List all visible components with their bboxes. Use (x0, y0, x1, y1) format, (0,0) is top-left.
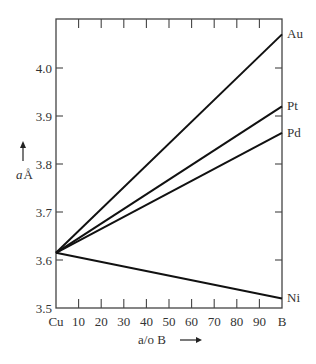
series-line-pt (56, 106, 282, 252)
y-axis-arrow-icon (20, 141, 26, 161)
x-tick-label: 30 (117, 314, 130, 329)
series-label-pt: Pt (287, 98, 298, 113)
series-label-au: Au (287, 26, 303, 41)
x-tick-label: 80 (230, 314, 243, 329)
x-axis-label: a/o B (138, 332, 166, 347)
series-line-pd (56, 133, 282, 253)
y-tick-label: 4.0 (36, 61, 52, 76)
x-tick-label: 90 (253, 314, 266, 329)
series-label-pd: Pd (287, 125, 301, 140)
x-axis-arrow-icon (180, 337, 202, 343)
y-axis-label: aÅ (16, 167, 34, 182)
y-axis-label-symbol: a (16, 167, 23, 182)
plot-frame (56, 19, 282, 308)
x-tick-label: 70 (208, 314, 221, 329)
y-axis-ticks: 3.53.63.73.83.94.0 (36, 61, 282, 316)
y-axis-label-unit: Å (24, 167, 34, 182)
x-tick-label: 40 (140, 314, 153, 329)
series-label-ni: Ni (287, 290, 300, 305)
x-tick-label: B (278, 314, 287, 329)
lattice-parameter-chart: Cu102030405060708090B 3.53.63.73.83.94.0… (0, 0, 316, 364)
series-line-ni (56, 253, 282, 299)
y-tick-label: 3.7 (36, 205, 53, 220)
series-line-au (56, 34, 282, 252)
x-tick-label: 50 (163, 314, 176, 329)
x-tick-label: Cu (48, 314, 64, 329)
y-tick-label: 3.5 (36, 301, 52, 316)
x-tick-label: 20 (95, 314, 108, 329)
x-tick-label: 60 (185, 314, 198, 329)
series-lines (56, 34, 282, 298)
y-tick-label: 3.9 (36, 109, 52, 124)
series-labels: AuPtPdNi (287, 26, 303, 305)
x-tick-label: 10 (72, 314, 85, 329)
y-tick-label: 3.8 (36, 157, 52, 172)
y-tick-label: 3.6 (36, 253, 53, 268)
